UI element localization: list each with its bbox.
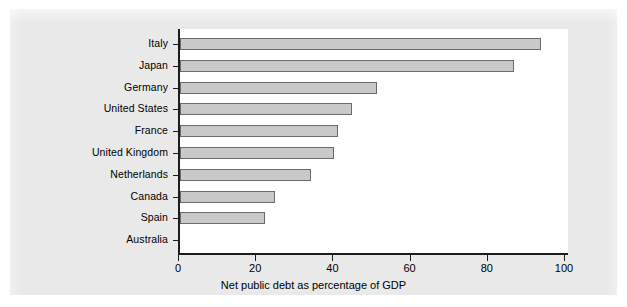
x-axis-tick xyxy=(178,255,179,261)
category-label: Italy xyxy=(148,37,168,49)
category-row: Canada xyxy=(10,187,617,208)
x-axis-tick-label: 0 xyxy=(175,262,181,274)
x-axis-tick xyxy=(487,255,488,261)
category-label: United Kingdom xyxy=(92,146,168,158)
bar xyxy=(180,191,275,203)
x-axis-tick xyxy=(410,255,411,261)
category-label: Japan xyxy=(139,59,168,71)
y-axis-tick xyxy=(173,153,178,154)
x-axis-tick xyxy=(255,255,256,261)
category-label: Canada xyxy=(131,190,168,202)
x-axis-tick-label: 20 xyxy=(249,262,261,274)
bar xyxy=(180,147,334,159)
y-axis-tick xyxy=(173,44,178,45)
y-axis-tick xyxy=(173,197,178,198)
bar xyxy=(180,38,541,50)
category-row: Germany xyxy=(10,78,617,99)
category-label: Netherlands xyxy=(110,168,168,180)
category-row: Italy xyxy=(10,34,617,55)
category-row: France xyxy=(10,121,617,142)
x-axis-tick-label: 40 xyxy=(326,262,338,274)
y-axis-tick xyxy=(173,109,178,110)
category-label: United States xyxy=(104,102,168,114)
x-axis-line xyxy=(178,253,568,255)
x-axis-tick-label: 100 xyxy=(555,262,573,274)
category-row: Netherlands xyxy=(10,165,617,186)
y-axis-tick xyxy=(173,218,178,219)
bar xyxy=(180,82,377,94)
x-axis-tick xyxy=(332,255,333,261)
category-row: United States xyxy=(10,99,617,120)
x-axis-tick-label: 80 xyxy=(481,262,493,274)
bar xyxy=(180,125,338,137)
category-label: France xyxy=(135,124,168,136)
category-label: Australia xyxy=(126,233,168,245)
category-row: Australia xyxy=(10,230,617,251)
category-row: Spain xyxy=(10,208,617,229)
bar xyxy=(180,103,352,115)
chart-page: ItalyJapanGermanyUnited StatesFranceUnit… xyxy=(0,0,627,307)
category-row: Japan xyxy=(10,56,617,77)
y-axis-tick xyxy=(173,66,178,67)
bar xyxy=(180,60,514,72)
bar xyxy=(180,212,265,224)
x-axis-title: Net public debt as percentage of GDP xyxy=(10,279,617,291)
category-label: Germany xyxy=(124,81,168,93)
y-axis-tick xyxy=(173,240,178,241)
figure-panel: ItalyJapanGermanyUnited StatesFranceUnit… xyxy=(10,9,617,295)
x-axis-tick xyxy=(564,255,565,261)
bar xyxy=(180,169,311,181)
category-row: United Kingdom xyxy=(10,143,617,164)
y-axis-tick xyxy=(173,131,178,132)
category-label: Spain xyxy=(141,211,168,223)
y-axis-tick xyxy=(173,88,178,89)
x-axis-tick-label: 60 xyxy=(403,262,415,274)
y-axis-tick xyxy=(173,175,178,176)
